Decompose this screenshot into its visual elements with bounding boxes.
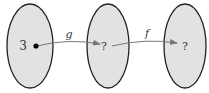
set-ellipse-1	[7, 4, 53, 88]
arrow-label-g: g	[65, 28, 72, 41]
element-dot	[33, 43, 38, 48]
element-label-3: ?	[182, 40, 188, 53]
function-composition-diagram: 3 ? ? g f	[0, 0, 209, 93]
element-label-1: 3	[19, 39, 27, 53]
element-label-2: ?	[101, 40, 107, 53]
arrow-label-f: f	[144, 27, 151, 40]
set-ellipse-2	[87, 4, 129, 88]
